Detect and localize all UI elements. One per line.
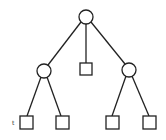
tree-diagram: t xyxy=(0,0,166,140)
edge-root-right xyxy=(91,22,125,64)
edge-right-leaf4 xyxy=(132,76,149,116)
middle-leaf-node xyxy=(80,63,92,75)
leaf-node-1 xyxy=(20,116,33,129)
edge-root-left xyxy=(48,22,81,65)
leaf-1-label: t xyxy=(12,119,15,126)
root-node xyxy=(79,10,93,24)
edge-left-leaf1 xyxy=(27,77,41,116)
leaf-node-3 xyxy=(106,116,119,129)
leaf-node-2 xyxy=(56,116,69,129)
right-internal-node xyxy=(122,63,136,77)
edge-left-leaf2 xyxy=(47,77,61,116)
left-internal-node xyxy=(37,64,51,78)
edge-right-leaf3 xyxy=(112,76,126,116)
leaf-node-4 xyxy=(143,116,156,129)
